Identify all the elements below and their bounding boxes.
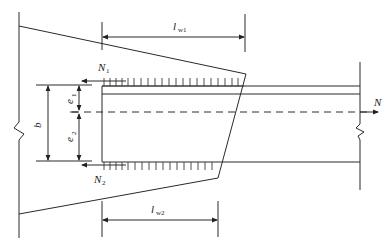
label-e2-sub: 2 — [70, 131, 78, 135]
weld-bottom-hatch — [104, 162, 212, 170]
label-lw2-sub: w2 — [156, 209, 165, 217]
right-break-line — [356, 62, 364, 190]
weld-top-hatch — [102, 78, 244, 86]
gusset-top-edge — [19, 26, 246, 74]
label-N: N — [373, 96, 382, 108]
label-lw1: l — [173, 20, 176, 32]
label-N2-sub: 2 — [102, 179, 106, 187]
gusset-plate — [14, 12, 246, 238]
gusset-bottom-edge — [19, 178, 218, 214]
label-lw1-sub: w1 — [178, 26, 187, 34]
weld-connection-diagram: N N 1 — [0, 0, 392, 248]
label-b: b — [31, 122, 43, 128]
label-e1-sub: 1 — [70, 93, 78, 97]
label-N2: N — [93, 173, 102, 185]
label-N1: N — [97, 61, 106, 73]
label-e1: e — [63, 99, 75, 104]
label-e2: e — [63, 137, 75, 142]
label-N1-sub: 1 — [106, 67, 110, 75]
label-lw2: l — [151, 203, 154, 215]
left-break-line — [14, 12, 24, 238]
